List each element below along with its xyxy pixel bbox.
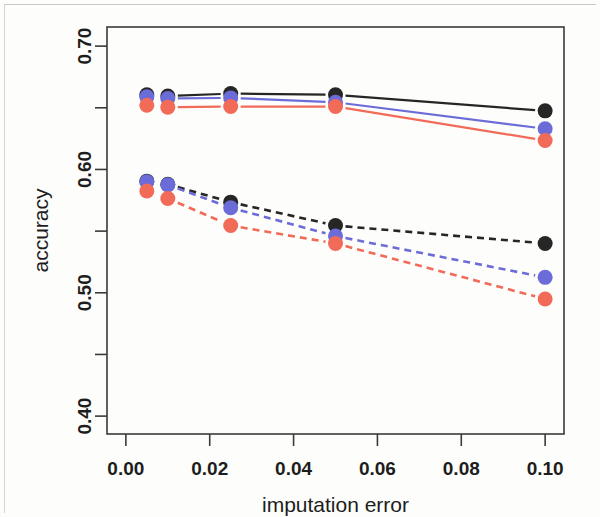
x-axis-tick-label: 0.06 — [359, 458, 396, 479]
data-point-marker — [223, 99, 238, 114]
series-line — [241, 98, 326, 101]
data-point-marker — [538, 103, 553, 118]
x-axis-title: imputation error — [262, 493, 409, 516]
x-axis-tick-label: 0.08 — [443, 458, 480, 479]
accuracy-vs-imputation-error-chart: 0.400.500.600.700.000.020.040.060.080.10… — [0, 0, 600, 517]
y-axis-tick-label: 0.50 — [75, 274, 96, 311]
chart-series — [139, 184, 552, 307]
data-point-marker — [538, 291, 553, 306]
series-line — [178, 187, 221, 199]
series-line — [241, 94, 326, 95]
data-point-marker — [538, 133, 553, 148]
x-axis-tick-label: 0.00 — [107, 458, 144, 479]
series-line — [346, 246, 536, 296]
y-axis-tick-label: 0.70 — [75, 28, 96, 65]
x-axis-tick-label: 0.04 — [275, 458, 312, 479]
data-point-marker — [160, 177, 175, 192]
data-point-marker — [223, 200, 238, 215]
series-line — [178, 94, 221, 96]
series-line — [178, 203, 221, 222]
data-point-marker — [223, 218, 238, 233]
series-line — [346, 238, 536, 275]
x-axis-tick-label: 0.02 — [191, 458, 228, 479]
y-axis-tick-label: 0.40 — [75, 398, 96, 435]
figure-container: 0.400.500.600.700.000.020.040.060.080.10… — [0, 0, 600, 517]
y-axis-tick-label: 0.60 — [75, 151, 96, 188]
chart-series — [139, 174, 552, 285]
data-point-marker — [139, 98, 154, 113]
data-point-marker — [328, 99, 343, 114]
data-point-marker — [538, 270, 553, 285]
series-line — [346, 226, 536, 242]
data-point-marker — [160, 191, 175, 206]
data-point-marker — [139, 184, 154, 199]
data-point-marker — [538, 236, 553, 251]
chart-series — [139, 86, 552, 118]
data-point-marker — [160, 100, 175, 115]
x-axis-tick-label: 0.10 — [527, 458, 564, 479]
y-axis-title: accuracy — [29, 188, 52, 273]
data-point-marker — [328, 236, 343, 251]
